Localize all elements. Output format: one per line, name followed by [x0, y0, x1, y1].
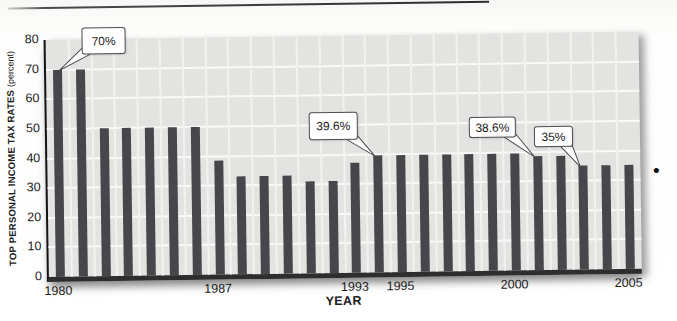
bar-1994	[373, 155, 384, 272]
bar-1986	[191, 127, 202, 275]
y-tick-label: 60	[11, 91, 39, 106]
bars-layer	[46, 32, 642, 277]
bar-2002	[556, 155, 567, 269]
bar-1982	[99, 128, 110, 276]
x-tick-label: 1993	[330, 279, 380, 294]
callout-386: 38.6%	[469, 116, 516, 138]
y-tick-label: 0	[14, 269, 42, 284]
y-tick-label: 80	[10, 32, 38, 47]
y-tick-label: 20	[13, 210, 41, 225]
bar-1993	[351, 163, 362, 273]
bar-1989	[260, 176, 270, 274]
x-tick-label: 1980	[33, 284, 83, 299]
bar-1991	[305, 181, 315, 273]
bar-2005	[624, 165, 634, 269]
bar-2000	[510, 153, 521, 270]
x-tick-label: 1987	[193, 281, 243, 296]
top-rule-line	[8, 1, 489, 10]
callout-35: 35%	[534, 126, 573, 148]
y-tick-label: 30	[13, 180, 41, 195]
y-tick-label: 40	[12, 151, 40, 166]
x-tick-label: 1995	[375, 279, 425, 294]
y-tick-label: 10	[13, 239, 41, 254]
bar-1998	[465, 154, 476, 271]
bar-1999	[487, 153, 498, 270]
bar-1996	[419, 154, 430, 271]
bar-1984	[145, 127, 156, 275]
bar-1980	[53, 69, 65, 276]
bar-2001	[533, 156, 544, 270]
bar-1992	[328, 181, 338, 273]
plot-area: 70%39.6%38.6%35%	[44, 32, 642, 282]
y-tick-label: 50	[12, 121, 40, 136]
y-tick-label: 70	[11, 62, 39, 77]
bar-1988	[237, 177, 247, 275]
chart-figure: TOP PERSONAL INCOME TAX RATES (percent) …	[0, 0, 677, 321]
bar-1981	[76, 69, 88, 276]
bar-1987	[214, 161, 225, 275]
scanned-book-page: TOP PERSONAL INCOME TAX RATES (percent) …	[0, 0, 677, 321]
bar-1990	[282, 176, 292, 274]
x-tick-label: 2005	[604, 276, 654, 291]
bar-1995	[396, 155, 407, 272]
callout-396: 39.6%	[309, 112, 358, 141]
bar-1997	[442, 154, 453, 271]
bar-1985	[168, 127, 179, 275]
x-tick-label: 2000	[489, 277, 539, 292]
bullet-dot: •	[653, 161, 660, 180]
callout-70: 70%	[81, 27, 125, 55]
bar-1983	[122, 128, 133, 276]
bar-2003	[579, 166, 589, 270]
bar-2004	[602, 165, 612, 269]
